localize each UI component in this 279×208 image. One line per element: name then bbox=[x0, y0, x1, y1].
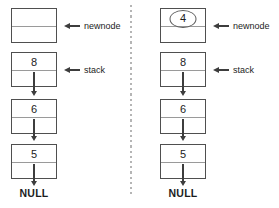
next-link-arrow bbox=[182, 72, 183, 91]
next-link-arrow bbox=[182, 164, 183, 181]
node-value: 8 bbox=[31, 56, 37, 68]
node-value-cell: 5 bbox=[161, 145, 205, 163]
next-link-arrow bbox=[182, 119, 183, 136]
next-link-arrow bbox=[33, 119, 34, 136]
null-label: NULL bbox=[11, 187, 57, 199]
node-value: 5 bbox=[31, 148, 37, 160]
newnode-value-cell: 4 bbox=[161, 9, 205, 27]
node-value: 5 bbox=[180, 148, 186, 160]
newnode-next-cell bbox=[12, 27, 56, 42]
node-value-cell: 5 bbox=[12, 145, 56, 163]
newnode-box: 4 bbox=[160, 8, 206, 43]
panel-before-push: newnode 8 stack 6 5 bbox=[0, 0, 130, 208]
down-arrowhead-icon bbox=[31, 91, 37, 96]
newnode-next-cell bbox=[161, 27, 205, 42]
node-value: 8 bbox=[180, 56, 186, 68]
next-link-arrow bbox=[33, 72, 34, 91]
arrow-shaft bbox=[70, 25, 80, 26]
linked-list-stack-diagram: newnode 8 stack 6 5 bbox=[0, 0, 279, 208]
down-arrowhead-icon bbox=[180, 181, 186, 186]
node-value: 6 bbox=[31, 103, 37, 115]
down-arrowhead-icon bbox=[31, 181, 37, 186]
dashed-divider bbox=[130, 5, 132, 195]
down-arrowhead-icon bbox=[180, 136, 186, 141]
node-value-cell: 6 bbox=[161, 100, 205, 118]
arrow-shaft bbox=[70, 69, 80, 70]
node-value-cell: 8 bbox=[12, 53, 56, 71]
stack-pointer-label: stack bbox=[213, 65, 254, 75]
down-arrowhead-icon bbox=[31, 136, 37, 141]
newnode-pointer-label: newnode bbox=[64, 21, 121, 31]
panel-after-newnode-created: 4 newnode 8 stack 6 bbox=[149, 0, 279, 208]
null-label: NULL bbox=[160, 187, 206, 199]
newnode-pointer-label: newnode bbox=[213, 21, 270, 31]
stack-pointer-label: stack bbox=[64, 65, 105, 75]
next-link-arrow bbox=[33, 164, 34, 181]
stack-label: stack bbox=[233, 65, 254, 75]
newnode-label: newnode bbox=[84, 21, 121, 31]
newnode-value-cell bbox=[12, 9, 56, 27]
node-value-cell: 6 bbox=[12, 100, 56, 118]
node-value: 6 bbox=[180, 103, 186, 115]
arrow-shaft bbox=[219, 25, 229, 26]
newnode-label: newnode bbox=[233, 21, 270, 31]
down-arrowhead-icon bbox=[180, 91, 186, 96]
stack-label: stack bbox=[84, 65, 105, 75]
node-value-cell: 8 bbox=[161, 53, 205, 71]
newnode-box bbox=[11, 8, 57, 43]
arrow-shaft bbox=[219, 69, 229, 70]
newnode-value: 4 bbox=[180, 12, 186, 24]
